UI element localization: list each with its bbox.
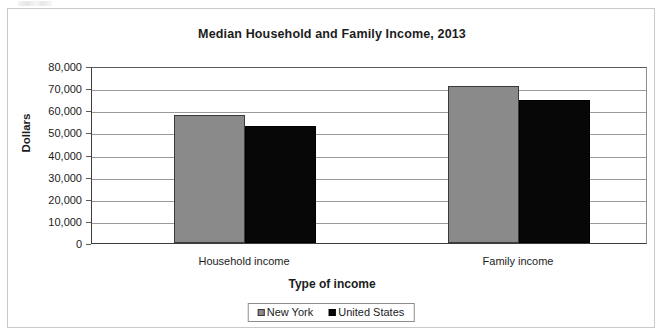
- y-axis-tick-label: 40,000: [10, 150, 82, 162]
- chart-frame: Median Household and Family Income, 2013…: [7, 8, 655, 328]
- chart-title: Median Household and Family Income, 2013: [8, 27, 656, 41]
- y-axis-tick-label: 20,000: [10, 194, 82, 206]
- y-axis-tick-label: 0: [10, 238, 82, 250]
- bar: [245, 126, 316, 243]
- plot-area: [91, 67, 647, 244]
- bar: [174, 115, 245, 243]
- y-axis-tick-label: 80,000: [10, 61, 82, 73]
- y-axis-tick-label: 60,000: [10, 105, 82, 117]
- legend-item-label: New York: [267, 306, 313, 318]
- y-axis-tick-label: 10,000: [10, 216, 82, 228]
- y-axis-tick-label: 70,000: [10, 83, 82, 95]
- x-axis-category-label: Household income: [198, 255, 289, 267]
- legend-swatch-icon: [329, 309, 336, 316]
- bar: [448, 86, 519, 243]
- legend: New YorkUnited States: [248, 303, 415, 322]
- scan-artifact: [18, 1, 52, 6]
- bar: [519, 100, 590, 243]
- x-axis-category-label: Family income: [483, 255, 554, 267]
- y-axis-tick-mark: [86, 244, 91, 245]
- y-axis-tick-label: 50,000: [10, 127, 82, 139]
- legend-item-label: United States: [338, 306, 404, 318]
- legend-item: United States: [329, 306, 404, 318]
- legend-item: New York: [258, 306, 313, 318]
- x-axis-title: Type of income: [8, 277, 656, 291]
- legend-swatch-icon: [258, 309, 265, 316]
- y-axis-tick-label: 30,000: [10, 172, 82, 184]
- gridline: [92, 90, 646, 91]
